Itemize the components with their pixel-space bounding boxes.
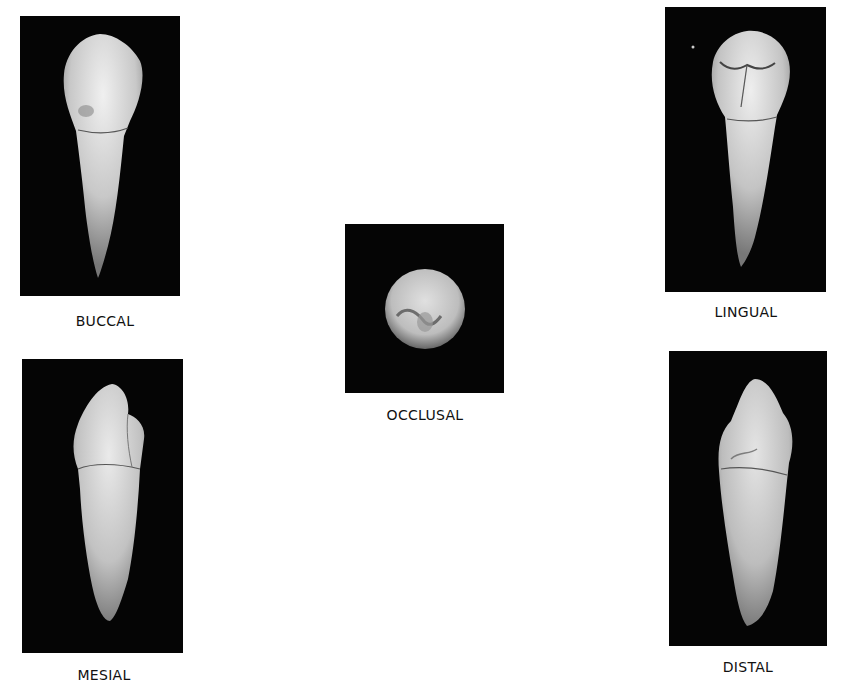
tooth-lingual-view-image: [665, 7, 826, 292]
lingual-photo: [665, 7, 826, 292]
tooth-distal-view-image: [669, 351, 827, 646]
lingual-label: LINGUAL: [666, 304, 826, 320]
occlusal-photo: [345, 224, 504, 393]
mesial-photo: [22, 359, 183, 653]
buccal-photo: [20, 16, 180, 296]
tooth-mesial-view-image: [22, 359, 183, 653]
tooth-occlusal-view-image: [345, 224, 504, 393]
buccal-label: BUCCAL: [25, 313, 185, 329]
occlusal-label: OCCLUSAL: [345, 407, 505, 423]
distal-photo: [669, 351, 827, 646]
mesial-label: MESIAL: [24, 667, 184, 683]
distal-label: DISTAL: [668, 659, 828, 675]
tooth-buccal-view-image: [20, 16, 180, 296]
